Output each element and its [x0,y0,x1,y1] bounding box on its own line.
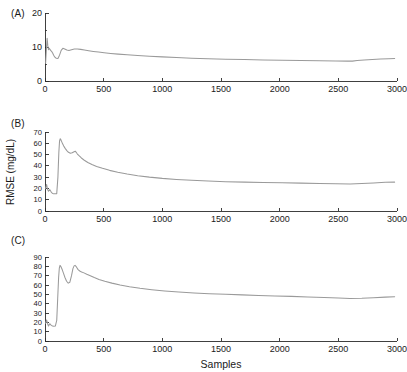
svg-text:2500: 2500 [328,214,348,224]
svg-text:2500: 2500 [328,344,348,354]
svg-text:1000: 1000 [152,214,172,224]
panel-a-data-line [46,38,395,63]
svg-text:30: 30 [34,173,42,182]
panel-a-plot: 01020050010001500200025003000 [0,8,407,120]
svg-text:2000: 2000 [270,214,290,224]
svg-text:1500: 1500 [211,214,231,224]
svg-text:3000: 3000 [387,214,407,224]
svg-text:2000: 2000 [270,344,290,354]
svg-text:500: 500 [96,84,111,94]
svg-text:0: 0 [38,207,42,216]
panel-c-data-line [46,265,395,326]
svg-text:20: 20 [34,184,42,193]
panel-b-data-line [46,139,395,194]
svg-text:500: 500 [96,214,111,224]
svg-text:0: 0 [42,84,47,94]
svg-text:80: 80 [34,262,42,271]
svg-text:1000: 1000 [152,84,172,94]
svg-text:40: 40 [34,161,42,170]
svg-text:60: 60 [34,139,42,148]
panel-b: (B) 010203040506070050010001500200025003… [0,118,407,235]
panel-c: (C) 010203040506070809005001000150020002… [0,235,407,372]
panel-a: (A) 01020050010001500200025003000 [0,8,407,120]
svg-text:0: 0 [42,214,47,224]
svg-text:1500: 1500 [211,344,231,354]
svg-text:50: 50 [34,150,42,159]
x-axis-title: Samples [201,358,242,370]
y-axis-title: RMSE (mg/dL) [5,139,16,205]
svg-text:20: 20 [32,8,42,18]
svg-text:70: 70 [34,128,42,137]
svg-text:500: 500 [96,344,111,354]
svg-text:50: 50 [34,290,42,299]
svg-text:10: 10 [34,195,42,204]
panel-b-plot: 010203040506070050010001500200025003000 … [0,118,407,235]
svg-text:30: 30 [34,309,42,318]
svg-text:10: 10 [32,42,42,52]
svg-text:0: 0 [37,76,42,86]
svg-text:40: 40 [34,299,42,308]
svg-text:0: 0 [42,344,47,354]
svg-text:70: 70 [34,271,42,280]
svg-text:90: 90 [34,253,42,262]
svg-text:3000: 3000 [387,344,407,354]
svg-text:20: 20 [34,318,42,327]
svg-text:2500: 2500 [328,84,348,94]
figure-rmse-panels: (A) 01020050010001500200025003000 (B) 01… [0,0,407,372]
svg-text:60: 60 [34,281,42,290]
panel-c-plot: 0102030405060708090050010001500200025003… [0,235,407,372]
svg-text:3000: 3000 [387,84,407,94]
svg-text:0: 0 [38,337,42,346]
svg-text:10: 10 [34,327,42,336]
svg-text:2000: 2000 [270,84,290,94]
svg-text:1500: 1500 [211,84,231,94]
svg-text:1000: 1000 [152,344,172,354]
